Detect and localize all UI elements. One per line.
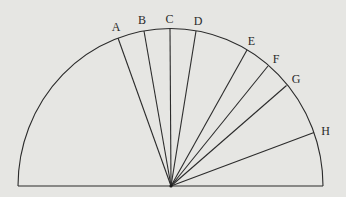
diagram-svg: ABCDEFGH (0, 0, 346, 197)
radial-line-g (171, 86, 287, 187)
point-label-a: A (112, 20, 121, 34)
point-label-f: F (273, 52, 280, 66)
center-point (169, 184, 172, 187)
point-label-c: C (165, 12, 173, 26)
radial-line-c (170, 29, 171, 187)
point-label-b: B (138, 13, 146, 27)
radial-lines (118, 29, 314, 187)
point-label-e: E (248, 34, 255, 48)
point-label-g: G (292, 72, 301, 86)
semicircle-diagram: ABCDEFGH (0, 0, 346, 197)
radial-line-a (118, 38, 171, 186)
point-label-h: H (321, 124, 330, 138)
radial-line-b (144, 31, 171, 186)
point-label-d: D (194, 14, 203, 28)
